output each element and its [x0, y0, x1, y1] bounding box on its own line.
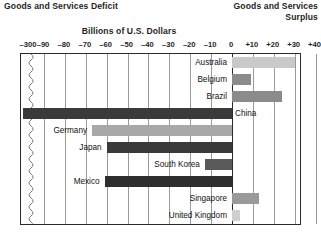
surplus-heading-line1: Goods and Services: [188, 1, 318, 12]
bar-row: South Korea: [21, 156, 300, 173]
tick-label-6: –40: [141, 40, 154, 49]
x-axis-tick-labels: –300–90–80–70–60–50–40–30–20–100+10+20+3…: [0, 40, 321, 53]
tick-label-3: –70: [78, 40, 91, 49]
tick-label-4: –60: [99, 40, 112, 49]
tick-label-8: –20: [183, 40, 196, 49]
tick-label-0: –300: [20, 40, 37, 49]
bar-row: Germany: [21, 122, 300, 139]
bar-germany[interactable]: [92, 125, 232, 136]
tick-label-10: 0: [229, 40, 233, 49]
bar-china[interactable]: [23, 108, 232, 119]
tick-label-13: +30: [287, 40, 300, 49]
bar-japan[interactable]: [107, 142, 232, 153]
surplus-heading: Goods and Services Surplus: [188, 1, 318, 23]
bar-row: Singapore: [21, 190, 300, 207]
tick-label-5: –50: [120, 40, 133, 49]
bar-row: Brazil: [21, 88, 300, 105]
bar-south-korea[interactable]: [205, 159, 232, 170]
bar-row: Mexico: [21, 173, 300, 190]
surplus-heading-line2: Surplus: [188, 12, 318, 23]
bar-row: United Kingdom: [21, 207, 300, 224]
bar-label-belgium: Belgium: [197, 73, 227, 86]
bar-united-kingdom[interactable]: [232, 210, 240, 221]
deficit-heading: Goods and Services Deficit: [4, 1, 118, 11]
tick-label-9: –10: [204, 40, 217, 49]
bar-label-germany: Germany: [53, 124, 87, 137]
tick-label-7: –30: [162, 40, 175, 49]
bar-row: Belgium: [21, 71, 300, 88]
chart-page: Goods and Services Deficit Goods and Ser…: [0, 0, 321, 242]
axis-title: Billions of U.S. Dollars: [0, 26, 258, 36]
bar-label-china: China: [235, 107, 256, 120]
tick-label-14: +40: [308, 40, 321, 49]
bar-label-united-kingdom: United Kingdom: [169, 209, 227, 222]
bar-label-brazil: Brazil: [207, 90, 227, 103]
bar-label-japan: Japan: [79, 141, 101, 154]
gridline-40: [316, 54, 317, 224]
bar-belgium[interactable]: [232, 74, 251, 85]
bar-label-singapore: Singapore: [190, 192, 227, 205]
bar-australia[interactable]: [232, 57, 295, 68]
tick-label-1: –90: [37, 40, 50, 49]
bar-brazil[interactable]: [232, 91, 282, 102]
bar-label-australia: Australia: [195, 56, 227, 69]
bar-label-mexico: Mexico: [74, 175, 100, 188]
bar-row: Japan: [21, 139, 300, 156]
bar-row: Australia: [21, 54, 300, 71]
bar-singapore[interactable]: [232, 193, 259, 204]
tick-label-12: +20: [266, 40, 279, 49]
plot-area: AustraliaBelgiumBrazilChinaGermanyJapanS…: [20, 53, 301, 225]
bar-mexico[interactable]: [105, 176, 232, 187]
tick-label-2: –80: [58, 40, 71, 49]
bar-row: China: [21, 105, 300, 122]
tick-label-11: +10: [245, 40, 258, 49]
bar-rows: AustraliaBelgiumBrazilChinaGermanyJapanS…: [21, 54, 300, 224]
bar-label-south-korea: South Korea: [154, 158, 200, 171]
